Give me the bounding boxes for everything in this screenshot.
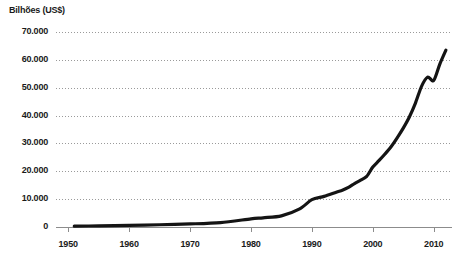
x-axis-tick-label: 1980 — [231, 239, 271, 249]
y-axis-tick-label: 40.000 — [4, 110, 48, 120]
x-axis-tick-label: 2000 — [353, 239, 393, 249]
x-axis-tick-label: 1990 — [292, 239, 332, 249]
x-axis-tick-label: 1950 — [48, 239, 88, 249]
y-axis-tick-label: 60.000 — [4, 54, 48, 64]
y-axis-tick-label: 20.000 — [4, 165, 48, 175]
x-axis-tick-label: 1960 — [109, 239, 149, 249]
x-axis-tick-label: 1970 — [170, 239, 210, 249]
y-axis-tick-label: 50.000 — [4, 82, 48, 92]
chart-container: Bilhões (US$) 70.00060.00050.00040.00030… — [0, 0, 468, 264]
x-axis-tick-label: 2010 — [414, 239, 454, 249]
y-axis-tick-label: 70.000 — [4, 26, 48, 36]
y-axis-tick-label: 30.000 — [4, 137, 48, 147]
chart-plot-area — [0, 0, 468, 264]
y-axis-tick-label: 0 — [4, 221, 48, 231]
gridlines — [56, 33, 452, 200]
y-axis-tick-label: 10.000 — [4, 193, 48, 203]
